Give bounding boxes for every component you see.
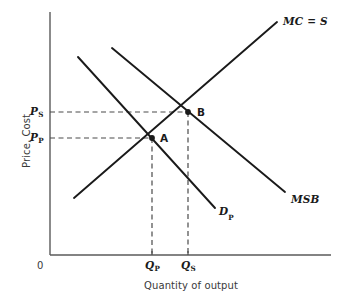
plot-canvas bbox=[0, 0, 344, 299]
x-tick-label-qp-subscript: P bbox=[154, 264, 159, 273]
curve-label-dp-subscript: P bbox=[228, 213, 234, 222]
point-label-a: A bbox=[160, 133, 168, 144]
curve-label-dp-base: D bbox=[219, 205, 228, 217]
curve-msb bbox=[112, 48, 285, 192]
x-tick-label-qp: QP bbox=[145, 260, 160, 271]
x-tick-label-qs-subscript: S bbox=[190, 264, 195, 273]
curve-mc-s bbox=[74, 22, 277, 198]
point-marker-a bbox=[149, 135, 155, 141]
x-tick-label-qs-base: Q bbox=[181, 259, 190, 271]
curve-dp bbox=[78, 57, 215, 208]
x-axis-title: Quantity of output bbox=[144, 281, 238, 291]
economics-diagram: MC = S MSB DP A B PS PP QP QS 0 Quantity… bbox=[0, 0, 344, 299]
y-tick-label-pp-subscript: P bbox=[38, 136, 43, 145]
y-tick-label-ps-subscript: S bbox=[38, 110, 43, 119]
point-label-b: B bbox=[197, 107, 205, 118]
curve-label-dp: DP bbox=[219, 206, 234, 219]
origin-label: 0 bbox=[37, 261, 43, 271]
x-tick-label-qs: QS bbox=[181, 260, 195, 271]
point-marker-b bbox=[185, 109, 191, 115]
x-tick-label-qp-base: Q bbox=[145, 259, 154, 271]
y-axis-title: Price, Cost bbox=[22, 114, 32, 168]
curve-label-msb: MSB bbox=[291, 194, 320, 205]
curve-label-mc-s: MC = S bbox=[283, 16, 328, 27]
